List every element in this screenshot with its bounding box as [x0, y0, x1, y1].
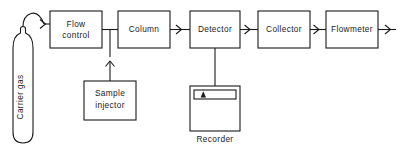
schematic-canvas: Carrier gas Flow control Column — [0, 0, 400, 153]
sample-injector-block: Sample injector — [84, 81, 136, 120]
column-to-detector-line — [170, 25, 190, 34]
column-label: Column — [129, 24, 160, 34]
detector-to-collector-line — [240, 25, 258, 34]
recorder-block: Recorder — [190, 86, 240, 144]
column-block: Column — [118, 11, 170, 48]
flow-control-label-line2: control — [62, 30, 89, 40]
carrier-gas-label: Carrier gas — [15, 75, 25, 120]
collector-to-flowmeter-line — [310, 25, 326, 34]
collector-label: Collector — [266, 24, 302, 34]
flow-control-to-column-line — [102, 30, 118, 58]
sample-injector-label-line1: Sample — [95, 88, 125, 98]
flow-control-label-line1: Flow — [67, 19, 87, 29]
flowmeter-label: Flowmeter — [331, 24, 373, 34]
flow-control-block: Flow control — [50, 11, 102, 48]
flowmeter-block: Flowmeter — [326, 11, 378, 48]
gas-chromatograph-diagram: Carrier gas Flow control Column — [0, 0, 400, 153]
recorder-label: Recorder — [197, 134, 234, 144]
carrier-gas-cylinder: Carrier gas — [13, 27, 33, 144]
flowmeter-vent-line — [378, 25, 396, 34]
detector-label: Detector — [198, 24, 232, 34]
detector-block: Detector — [190, 11, 240, 48]
sample-injector-label-line2: injector — [95, 100, 125, 110]
carrier-gas-tube — [23, 13, 50, 28]
collector-block: Collector — [258, 11, 310, 48]
sample-injector-to-carrier-line — [106, 61, 115, 81]
strip-chart — [194, 90, 236, 99]
